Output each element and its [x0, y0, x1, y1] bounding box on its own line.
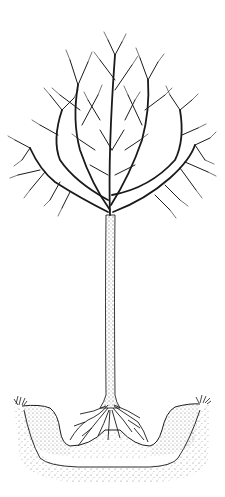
grass-tuft-left [14, 396, 27, 405]
planting-pit [22, 404, 200, 467]
tree-planting-illustration [0, 0, 225, 497]
trunk [100, 215, 120, 408]
tree-crown [8, 32, 216, 218]
grass-tuft-right [196, 395, 211, 404]
